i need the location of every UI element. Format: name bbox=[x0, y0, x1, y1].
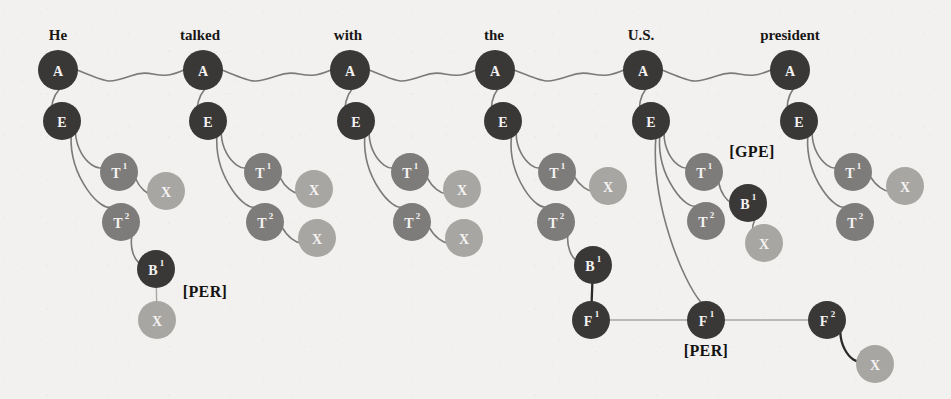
graph-node-b5[interactable]: B1 bbox=[729, 184, 767, 222]
node-superscript: 1 bbox=[708, 161, 713, 171]
graph-node-t5a[interactable]: T1 bbox=[685, 153, 723, 191]
graph-node-a3[interactable]: A bbox=[330, 50, 370, 90]
graph-edge bbox=[75, 133, 105, 168]
edges-layer bbox=[52, 70, 894, 361]
graph-node-t3b[interactable]: T2 bbox=[393, 203, 431, 241]
graph-node-f5[interactable]: F1 bbox=[687, 301, 725, 339]
node-label: X bbox=[309, 183, 319, 198]
graph-edge bbox=[221, 133, 250, 168]
node-label: T bbox=[548, 216, 558, 231]
node-label: T bbox=[549, 166, 559, 181]
graph-edge bbox=[369, 70, 476, 81]
node-superscript: 1 bbox=[160, 258, 165, 268]
graph-node-t1b[interactable]: T2 bbox=[102, 203, 140, 241]
node-superscript: 2 bbox=[269, 211, 274, 221]
graph-node-e6[interactable]: E bbox=[780, 102, 818, 140]
graph-edge bbox=[812, 133, 840, 168]
node-label: T bbox=[111, 166, 121, 181]
node-superscript: 1 bbox=[710, 309, 715, 319]
graph-node-t4b[interactable]: T2 bbox=[537, 203, 575, 241]
graph-node-a6[interactable]: A bbox=[770, 50, 810, 90]
graph-node-x4a[interactable]: X bbox=[589, 167, 627, 205]
graph-node-x1b[interactable]: X bbox=[138, 301, 176, 339]
graph-node-x2a[interactable]: X bbox=[295, 170, 333, 208]
node-label: T bbox=[255, 166, 265, 181]
graph-edge bbox=[516, 133, 544, 168]
graph-node-a5[interactable]: A bbox=[623, 50, 663, 90]
graph-node-t6a[interactable]: T1 bbox=[834, 153, 872, 191]
graph-node-t1a[interactable]: T1 bbox=[100, 153, 138, 191]
graph-node-x6b[interactable]: X bbox=[856, 345, 894, 383]
node-superscript: 1 bbox=[597, 254, 602, 264]
graph-node-t2b[interactable]: T2 bbox=[246, 203, 284, 241]
graph-node-e1[interactable]: E bbox=[43, 102, 81, 140]
node-superscript: 2 bbox=[831, 309, 836, 319]
graph-node-e3[interactable]: E bbox=[337, 102, 375, 140]
graph-node-e2[interactable]: E bbox=[189, 102, 227, 140]
node-label: E bbox=[57, 115, 66, 130]
graph-edge bbox=[592, 283, 593, 302]
graph-node-x6a[interactable]: X bbox=[886, 167, 924, 205]
graph-node-b1[interactable]: B1 bbox=[137, 250, 175, 288]
word-label-4: U.S. bbox=[628, 27, 655, 43]
graph-edge bbox=[662, 70, 771, 81]
graph-node-x2b[interactable]: X bbox=[298, 219, 336, 257]
node-label: X bbox=[152, 314, 162, 329]
node-label: T bbox=[698, 215, 708, 230]
graph-node-a4[interactable]: A bbox=[475, 50, 515, 90]
node-label: A bbox=[53, 64, 64, 79]
node-label: B bbox=[148, 263, 157, 278]
node-label: F bbox=[820, 314, 829, 329]
graph-edge bbox=[222, 70, 331, 81]
node-superscript: 1 bbox=[857, 161, 862, 171]
graph-node-a1[interactable]: A bbox=[38, 50, 78, 90]
node-label: A bbox=[638, 64, 649, 79]
graph-node-e5[interactable]: E bbox=[632, 102, 670, 140]
graph-node-t6b[interactable]: T2 bbox=[836, 203, 874, 241]
entity-tag-0: [PER] bbox=[183, 283, 228, 300]
graph-node-x1a[interactable]: X bbox=[147, 172, 185, 210]
node-label: A bbox=[785, 64, 796, 79]
node-superscript: 1 bbox=[267, 161, 272, 171]
graph-svg: AAAAAAEEEEEET1XT2B1XT1XT2XT1XT2XT1XT2B1F… bbox=[0, 0, 951, 399]
node-label: F bbox=[584, 314, 593, 329]
node-label: T bbox=[847, 216, 857, 231]
graph-node-b4[interactable]: B1 bbox=[574, 246, 612, 284]
graph-node-a2[interactable]: A bbox=[183, 50, 223, 90]
graph-node-f6[interactable]: F2 bbox=[808, 301, 846, 339]
node-label: E bbox=[351, 115, 360, 130]
node-label: X bbox=[459, 232, 469, 247]
diagram-canvas: AAAAAAEEEEEET1XT2B1XT1XT2XT1XT2XT1XT2B1F… bbox=[0, 0, 951, 399]
word-label-5: president bbox=[760, 27, 820, 43]
graph-node-t5b[interactable]: T2 bbox=[687, 202, 725, 240]
node-label: X bbox=[457, 183, 467, 198]
graph-node-x3a[interactable]: X bbox=[443, 170, 481, 208]
word-labels-layer: HetalkedwiththeU.S.president bbox=[49, 27, 820, 43]
graph-edge bbox=[514, 70, 624, 81]
nodes-layer: AAAAAAEEEEEET1XT2B1XT1XT2XT1XT2XT1XT2B1F… bbox=[38, 50, 924, 383]
node-label: X bbox=[161, 185, 171, 200]
node-superscript: 1 bbox=[123, 161, 128, 171]
node-superscript: 2 bbox=[416, 211, 421, 221]
node-label: B bbox=[740, 197, 749, 212]
graph-node-t3a[interactable]: T1 bbox=[391, 153, 429, 191]
node-label: X bbox=[900, 180, 910, 195]
node-label: B bbox=[585, 259, 594, 274]
node-label: X bbox=[870, 358, 880, 373]
word-label-1: talked bbox=[180, 27, 221, 43]
node-label: T bbox=[845, 166, 855, 181]
graph-node-e4[interactable]: E bbox=[484, 102, 522, 140]
graph-node-f4[interactable]: F1 bbox=[572, 301, 610, 339]
graph-node-t4a[interactable]: T1 bbox=[538, 153, 576, 191]
node-label: F bbox=[699, 314, 708, 329]
graph-node-x5b[interactable]: X bbox=[745, 224, 783, 262]
node-superscript: 1 bbox=[595, 309, 600, 319]
node-superscript: 2 bbox=[859, 211, 864, 221]
entity-tag-2: [PER] bbox=[684, 342, 729, 359]
entity-tag-1: [GPE] bbox=[729, 143, 775, 160]
graph-node-t2a[interactable]: T1 bbox=[244, 153, 282, 191]
node-label: A bbox=[198, 64, 209, 79]
node-label: T bbox=[696, 166, 706, 181]
node-label: E bbox=[646, 115, 655, 130]
graph-node-x3b[interactable]: X bbox=[445, 219, 483, 257]
